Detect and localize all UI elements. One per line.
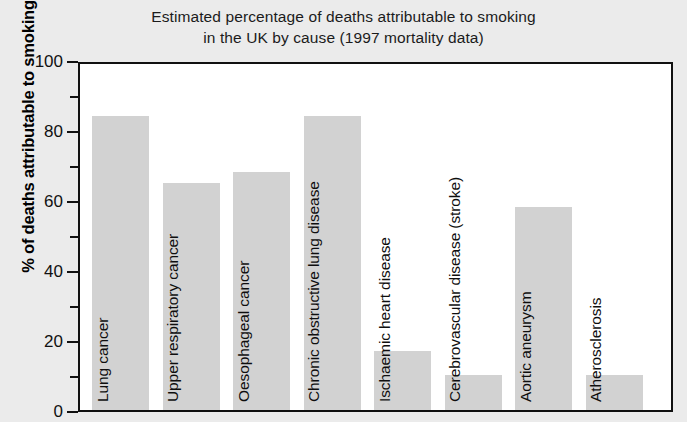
bar-category-label: Upper respiratory cancer bbox=[164, 234, 182, 402]
bar-category-label: Atherosclerosis bbox=[587, 298, 605, 402]
y-tick-label-80: 80 bbox=[44, 122, 63, 142]
y-tick-major-40 bbox=[67, 271, 78, 273]
y-tick-major-20 bbox=[67, 341, 78, 343]
bar-label-slot: Lung cancer bbox=[92, 64, 149, 410]
y-tick-label-40: 40 bbox=[44, 262, 63, 282]
y-tick-minor-70 bbox=[70, 166, 78, 168]
y-tick-label-20: 20 bbox=[44, 332, 63, 352]
y-tick-label-0: 0 bbox=[54, 402, 63, 422]
bar-category-label: Aortic aneurysm bbox=[517, 292, 535, 402]
bar-label-slot: Oesophageal cancer bbox=[233, 64, 290, 410]
bar-label-slot: Upper respiratory cancer bbox=[163, 64, 220, 410]
chart-title: Estimated percentage of deaths attributa… bbox=[0, 6, 687, 48]
bar-label-slot: Chronic obstructive lung disease bbox=[304, 64, 361, 410]
chart-figure: Estimated percentage of deaths attributa… bbox=[0, 0, 687, 422]
y-tick-major-60 bbox=[67, 201, 78, 203]
bar-category-label: Ischaemic heart disease bbox=[376, 237, 394, 402]
plot-area: Lung cancerUpper respiratory cancerOesop… bbox=[78, 62, 673, 412]
y-tick-minor-10 bbox=[70, 376, 78, 378]
bar-label-slot: Ischaemic heart disease bbox=[374, 64, 431, 410]
y-tick-major-100 bbox=[67, 61, 78, 63]
y-tick-label-100: 100 bbox=[35, 52, 63, 72]
bar-category-label: Oesophageal cancer bbox=[235, 261, 253, 402]
bar-label-slot: Cerebrovascular disease (stroke) bbox=[445, 64, 502, 410]
bar-category-label: Chronic obstructive lung disease bbox=[305, 181, 323, 402]
bar-label-slot: Atherosclerosis bbox=[586, 64, 643, 410]
y-tick-label-60: 60 bbox=[44, 192, 63, 212]
chart-title-line-2: in the UK by cause (1997 mortality data) bbox=[0, 27, 687, 48]
chart-title-line-1: Estimated percentage of deaths attributa… bbox=[0, 6, 687, 27]
y-tick-major-80 bbox=[67, 131, 78, 133]
bar-label-slot: Aortic aneurysm bbox=[515, 64, 572, 410]
bars-container: Lung cancerUpper respiratory cancerOesop… bbox=[80, 64, 671, 410]
y-tick-minor-30 bbox=[70, 306, 78, 308]
y-tick-major-0 bbox=[67, 411, 78, 413]
bar-category-label: Lung cancer bbox=[94, 318, 112, 402]
y-tick-minor-50 bbox=[70, 236, 78, 238]
bar-category-label: Cerebrovascular disease (stroke) bbox=[446, 177, 464, 402]
y-axis-ticks: 020406080100 bbox=[0, 62, 78, 412]
y-tick-minor-90 bbox=[70, 96, 78, 98]
